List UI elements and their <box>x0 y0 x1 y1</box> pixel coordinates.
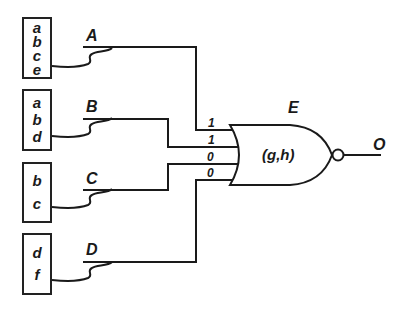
wire-C <box>83 164 238 190</box>
wire-box3-connector <box>52 189 112 208</box>
gate-function: (g,h) <box>262 146 294 163</box>
wire-box4-connector <box>52 262 112 281</box>
signal-label-D: D <box>86 241 98 259</box>
output-label: O <box>373 136 385 154</box>
input-box-4: d f <box>22 233 52 295</box>
input-box-1: a b c e <box>22 17 52 79</box>
box2-var-1: a <box>33 96 41 110</box>
signal-label-C: C <box>86 170 98 188</box>
wire-box1-connector <box>52 48 112 67</box>
box3-var-2: c <box>33 197 41 211</box>
input-box-3: b c <box>22 162 52 223</box>
box2-var-2: b <box>32 113 41 127</box>
box3-var-1: b <box>32 174 41 188</box>
circuit-wiring <box>0 0 411 311</box>
gate-label: E <box>288 99 299 117</box>
gate-input-value-2: 1 <box>208 133 215 147</box>
gate-input-value-3: 0 <box>207 150 214 164</box>
signal-label-A: A <box>86 27 98 45</box>
box4-var-2: f <box>35 268 40 282</box>
gate-input-value-1: 1 <box>208 116 215 130</box>
input-box-2: a b d <box>22 89 52 151</box>
nor-bubble <box>333 150 344 161</box>
box4-var-1: d <box>32 246 41 260</box>
box1-var-4: e <box>33 63 41 77</box>
signal-label-B: B <box>86 98 98 116</box>
wire-box2-connector <box>52 118 112 137</box>
box2-var-3: d <box>32 130 41 144</box>
gate-input-value-4: 0 <box>207 166 214 180</box>
